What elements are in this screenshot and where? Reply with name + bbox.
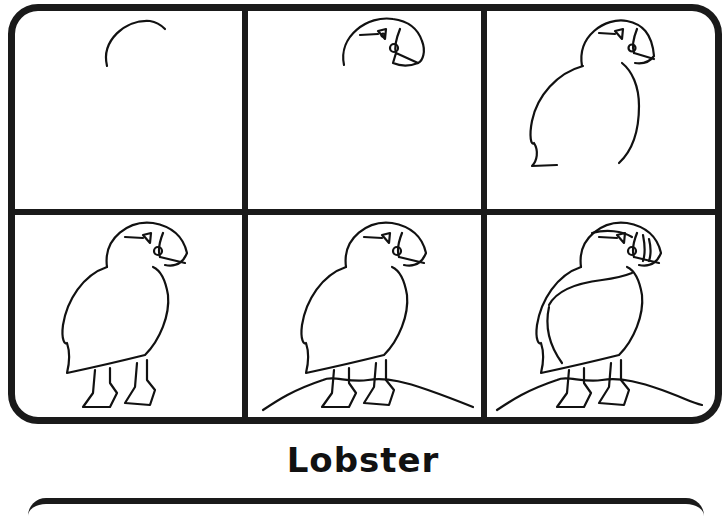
head-beak-drawing	[248, 11, 481, 209]
step-6-panel	[487, 215, 708, 415]
head-arc-drawing	[15, 11, 242, 209]
step-2-panel	[248, 11, 481, 209]
bird-on-rock-drawing	[248, 215, 481, 415]
step-4-panel	[15, 215, 242, 415]
full-bird-drawing	[15, 215, 242, 415]
step-3-panel	[487, 11, 708, 209]
worksheet-title: Lobster	[0, 440, 726, 480]
next-frame-top-edge	[28, 498, 704, 520]
step-1-panel	[15, 11, 242, 209]
detailed-bird-drawing	[487, 215, 708, 415]
step-5-panel	[248, 215, 481, 415]
head-body-drawing	[487, 11, 708, 209]
